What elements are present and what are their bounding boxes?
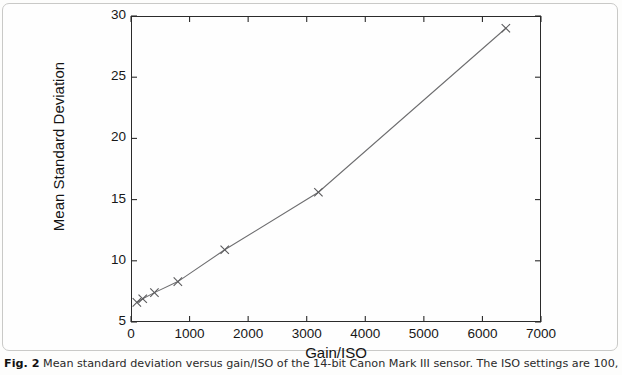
x-tick-label: 5000 <box>394 326 454 341</box>
scanned-page: 51015202530 0100020003000400050006000700… <box>0 0 622 375</box>
y-axis-title: Mean Standard Deviation <box>50 37 67 257</box>
figure-caption: Fig. 2 Mean standard deviation versus ga… <box>4 357 618 370</box>
x-tick-label: 3000 <box>277 326 337 341</box>
x-tick-label: 7000 <box>511 326 571 341</box>
x-tick-label: 0 <box>101 326 161 341</box>
x-tick-label: 2000 <box>218 326 278 341</box>
x-tick-label: 4000 <box>335 326 395 341</box>
x-tick-label: 1000 <box>160 326 220 341</box>
figure-number: Fig. 2 <box>4 357 39 370</box>
x-tick-label-group: 01000200030004000500060007000 <box>0 0 622 352</box>
x-tick-label: 6000 <box>452 326 512 341</box>
figure-plot-area: 51015202530 0100020003000400050006000700… <box>0 0 622 352</box>
figure-caption-text: Mean standard deviation versus gain/ISO … <box>43 357 618 370</box>
